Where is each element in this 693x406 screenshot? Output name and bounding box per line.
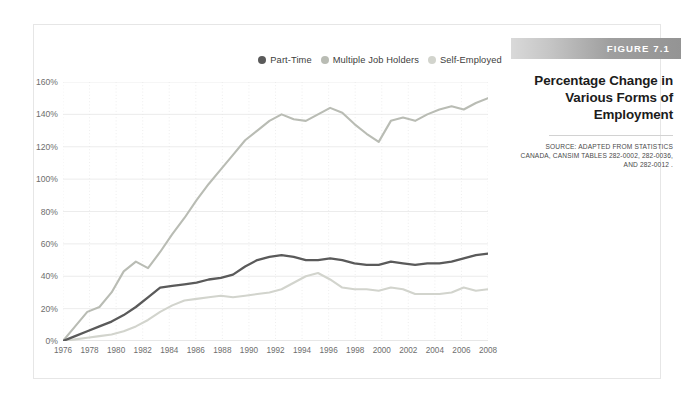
x-axis-tick-label: 1984 xyxy=(160,346,178,355)
y-axis-tick-label: 20% xyxy=(41,304,58,314)
legend-item-multiple-job-holders: Multiple Job Holders xyxy=(321,55,419,65)
x-axis-tick-label: 2004 xyxy=(426,346,444,355)
legend-label-multiple-job-holders: Multiple Job Holders xyxy=(333,55,419,65)
x-axis-tick-label: 1990 xyxy=(240,346,258,355)
figure-number-band: FIGURE 7.1 xyxy=(511,38,681,59)
legend-swatch-multiple-job-holders xyxy=(321,56,329,64)
plot-area: 0%20%40%60%80%100%120%140%160%1976197819… xyxy=(63,82,488,341)
legend-swatch-self-employed xyxy=(428,56,436,64)
x-axis-tick-label: 1976 xyxy=(54,346,72,355)
x-axis-tick-label: 1996 xyxy=(320,346,338,355)
figure-side-panel: FIGURE 7.1 Percentage Change in Various … xyxy=(511,38,681,170)
figure-title: Percentage Change in Various Forms of Em… xyxy=(511,72,681,123)
series-line-self-employed xyxy=(63,273,488,341)
legend-swatch-part-time xyxy=(258,56,266,64)
x-axis-tick-label: 1998 xyxy=(346,346,364,355)
panel-divider xyxy=(549,135,673,136)
x-axis-tick-label: 1980 xyxy=(107,346,125,355)
x-axis-tick-label: 1986 xyxy=(187,346,205,355)
series-line-multiple-job-holders xyxy=(63,98,488,341)
x-axis-tick-label: 1978 xyxy=(80,346,98,355)
figure-root: Part-Time Multiple Job Holders Self-Empl… xyxy=(0,0,693,406)
y-axis-tick-label: 120% xyxy=(36,142,58,152)
x-axis-tick-label: 2002 xyxy=(399,346,417,355)
x-axis-tick-label: 1982 xyxy=(134,346,152,355)
x-axis-tick-label: 2000 xyxy=(373,346,391,355)
legend-label-self-employed: Self-Employed xyxy=(440,55,502,65)
y-axis-tick-label: 0% xyxy=(46,336,58,346)
legend-item-part-time: Part-Time xyxy=(258,55,311,65)
x-axis-tick-label: 2006 xyxy=(452,346,470,355)
chart-canvas xyxy=(63,82,488,341)
y-axis-tick-label: 40% xyxy=(41,271,58,281)
y-axis-tick-label: 80% xyxy=(41,207,58,217)
x-axis-tick-label: 2008 xyxy=(479,346,497,355)
figure-number-label: FIGURE 7.1 xyxy=(607,43,681,54)
y-axis-tick-label: 100% xyxy=(36,174,58,184)
y-axis-tick-label: 60% xyxy=(41,239,58,249)
legend-item-self-employed: Self-Employed xyxy=(428,55,502,65)
legend-label-part-time: Part-Time xyxy=(270,55,311,65)
x-axis-tick-label: 1992 xyxy=(266,346,284,355)
y-axis-tick-label: 160% xyxy=(36,77,58,87)
x-axis-tick-label: 1988 xyxy=(213,346,231,355)
x-axis-tick-label: 1994 xyxy=(293,346,311,355)
y-axis-tick-label: 140% xyxy=(36,109,58,119)
chart-legend: Part-Time Multiple Job Holders Self-Empl… xyxy=(230,52,530,68)
figure-source-note: SOURCE: ADAPTED FROM STATISTICS CANADA, … xyxy=(511,142,681,170)
